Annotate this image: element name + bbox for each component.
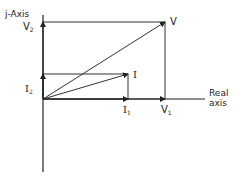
phasor-i-arrow	[43, 74, 128, 99]
real-axis-label-line1: Real	[209, 88, 228, 98]
i1-label: I1	[123, 104, 131, 116]
v2-label: V2	[23, 21, 34, 33]
i-phasor-label: I	[133, 69, 137, 80]
v-phasor-label: V	[170, 16, 177, 27]
phasor-v-arrow	[43, 22, 165, 99]
j-axis-label: j-Axis	[4, 9, 30, 19]
real-axis-label-line2: axis	[209, 98, 227, 108]
phasor-diagram: j-Axis V2 I2 V I I1 V1 Real axis	[0, 0, 239, 180]
i2-label: I2	[25, 83, 33, 95]
v1-label: V1	[161, 104, 172, 116]
